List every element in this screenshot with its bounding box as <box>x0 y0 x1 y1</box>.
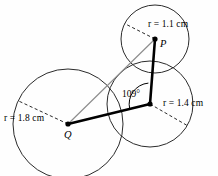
geometry-figure: r = 1.1 cm r = 1.8 cm r = 1.4 cm P Q 109… <box>0 0 218 176</box>
angle-label: 109° <box>122 90 140 100</box>
point-q-dot <box>65 121 70 126</box>
point-p-dot <box>152 36 157 41</box>
connector-q-to-p <box>68 39 155 124</box>
point-label-p: P <box>160 39 166 50</box>
circle-r-center-dot <box>147 101 152 106</box>
segment-center-to-p <box>150 39 155 104</box>
segment-center-to-q <box>68 104 150 124</box>
radius-label-top: r = 1.1 cm <box>148 20 188 30</box>
radius-label-left: r = 1.8 cm <box>4 114 44 124</box>
radius-label-right: r = 1.4 cm <box>163 99 203 109</box>
point-label-q: Q <box>64 130 72 141</box>
